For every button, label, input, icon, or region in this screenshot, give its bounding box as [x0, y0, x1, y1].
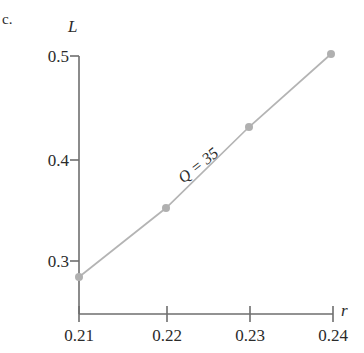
y-tick-label-0.5: 0.5: [48, 48, 69, 65]
x-tick-label-0.22: 0.22: [152, 327, 182, 344]
y-tick-label-0.3: 0.3: [48, 253, 69, 270]
x-tick-label-0.23: 0.23: [235, 327, 265, 344]
x-tick-label-0.24: 0.24: [318, 327, 348, 344]
data-point: [245, 123, 253, 131]
data-point: [162, 204, 170, 212]
data-point: [75, 273, 83, 281]
x-axis: [79, 306, 333, 322]
y-tick-label-0.4: 0.4: [48, 152, 69, 169]
figure-panel-c: c. L r 0.5 0.4 0.3 0.21 0.22 0.23 0.24: [0, 0, 364, 353]
data-point: [327, 50, 335, 58]
x-tick-label-0.21: 0.21: [64, 327, 94, 344]
